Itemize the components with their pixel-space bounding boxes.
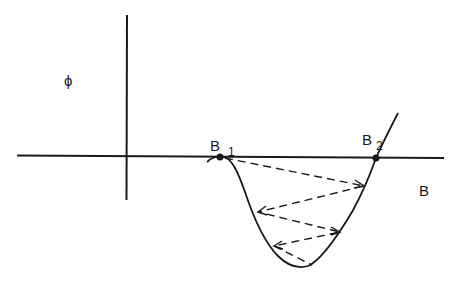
b2-point [373, 155, 380, 162]
b1-point [217, 154, 224, 161]
arrowhead-icon [258, 206, 267, 215]
b-axis-label: B [419, 182, 429, 199]
svg-text:B: B [362, 131, 372, 148]
vertical-axis [127, 15, 128, 200]
dashed-zigzag-path [225, 158, 364, 265]
phi-axis-label: ϕ [64, 72, 72, 89]
svg-text:1: 1 [228, 145, 235, 159]
svg-text:B: B [210, 137, 220, 154]
potential-well-diagram: ϕ B B 1 B 2 [0, 0, 460, 282]
